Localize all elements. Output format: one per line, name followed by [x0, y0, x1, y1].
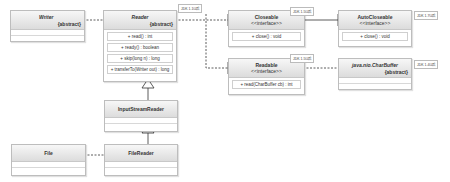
- class-autocloseable: AutoCloseable <<interface>> + close() : …: [338, 10, 412, 47]
- class-writer: Writer {abstract}: [10, 10, 85, 42]
- class-inputstreamreader: InputStreamReader: [104, 100, 178, 132]
- version-tag: JDK 1.5以后: [290, 54, 314, 63]
- class-file: File: [11, 144, 86, 176]
- class-filereader: FileReader: [104, 144, 178, 176]
- version-tag: JDK 1.1以后: [178, 4, 202, 13]
- class-charbuffer: java.nio.CharBuffer {abstract}: [338, 58, 412, 90]
- class-readable: Readable <<interface>> + read(CharBuffer…: [228, 58, 305, 95]
- version-tag: JDK 1.5以后: [290, 7, 314, 16]
- version-tag: JDK 1.4以后: [414, 60, 438, 69]
- version-tag: JDK 1.7以后: [414, 11, 438, 20]
- class-reader: Reader {abstract} + read() : int + ready…: [103, 10, 177, 82]
